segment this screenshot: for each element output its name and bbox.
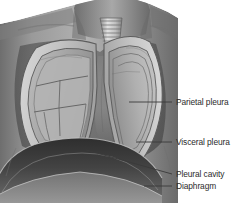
label-pleural-cavity: Pleural cavity: [176, 169, 225, 179]
torso-group: [0, 0, 178, 203]
label-diaphragm: Diaphragm: [176, 181, 216, 191]
anatomy-figure: Parietal pleura Visceral pleura Pleural …: [0, 0, 235, 203]
label-visceral-pleura: Visceral pleura: [176, 137, 230, 147]
label-parietal-pleura: Parietal pleura: [176, 97, 229, 107]
thorax-illustration: Parietal pleura Visceral pleura Pleural …: [0, 0, 235, 203]
left-lung-surface: [34, 55, 90, 143]
